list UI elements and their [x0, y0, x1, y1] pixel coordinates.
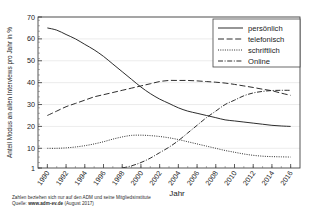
x-tick-label: 1998	[110, 169, 127, 187]
series-line-schriftlich	[47, 135, 290, 157]
legend-label-telefonisch: telefonisch	[248, 35, 284, 44]
y-tick-label: 60	[27, 34, 35, 43]
legend-label-persönlich: persönlich	[248, 24, 283, 33]
x-tick-label: 2014	[260, 169, 277, 187]
footnote-line-2: Quelle: www.adm-ev.de (August 2017)	[12, 201, 242, 207]
y-tick-label: 50	[27, 56, 35, 65]
x-tick-label: 1994	[72, 169, 89, 187]
chart-footnote: Zahlen beziehen sich nur auf den ADM und…	[12, 195, 242, 207]
x-tick-label: 2010	[222, 169, 239, 187]
footnote-source-suffix: (August 2017)	[63, 201, 94, 206]
y-tick-label: 40	[27, 78, 35, 87]
legend-label-online: Online	[248, 57, 270, 66]
series-line-telefonisch	[47, 80, 290, 115]
legend-label-schriftlich: schriftlich	[248, 46, 280, 55]
footnote-source-prefix: Quelle:	[12, 201, 28, 206]
x-tick-label: 2004	[166, 169, 183, 187]
chart-figure: 1102030405060701990199219941996199820002…	[0, 0, 321, 219]
x-tick-label: 1996	[91, 169, 108, 187]
x-tick-label: 2002	[147, 169, 164, 187]
y-tick-label: 30	[27, 100, 35, 109]
x-tick-label: 2006	[185, 169, 202, 187]
x-tick-label: 1990	[35, 169, 52, 187]
y-tick-label: 20	[27, 122, 35, 131]
x-tick-label: 2016	[278, 169, 295, 187]
y-tick-label: 70	[27, 13, 35, 22]
x-tick-label: 2012	[241, 169, 258, 187]
x-tick-label: 2008	[203, 169, 220, 187]
y-tick-label: 1	[31, 164, 35, 173]
x-tick-label: 2000	[129, 169, 146, 187]
footnote-source-url: www.adm-ev.de	[28, 201, 63, 206]
y-tick-label: 10	[27, 144, 35, 153]
x-tick-label: 1992	[54, 169, 71, 187]
y-axis-label: Anteil Modus an allen Interviews pro Jah…	[6, 27, 14, 158]
line-chart: 1102030405060701990199219941996199820002…	[0, 0, 321, 219]
